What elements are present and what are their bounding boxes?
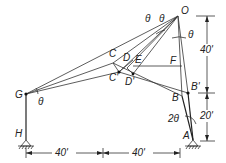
label-two-theta: 2θ xyxy=(167,113,180,124)
label-H: H xyxy=(15,128,23,139)
dimension-vertical xyxy=(196,16,215,141)
label-theta-3: θ xyxy=(188,29,194,40)
joint-G xyxy=(24,92,27,95)
label-Dprime: D' xyxy=(125,76,135,87)
dim-label-40-left: 40' xyxy=(55,147,69,158)
dimension-horizontal xyxy=(26,148,180,158)
label-E: E xyxy=(135,54,142,65)
label-D: D xyxy=(123,52,130,63)
frame-diagram: O G H A B B' C C' D E D' F θ θ θ θ 2θ 40… xyxy=(0,0,226,163)
label-Bprime: B' xyxy=(191,81,201,92)
dim-label-40-right: 40' xyxy=(132,147,146,158)
line-G-O xyxy=(26,16,178,94)
label-C: C xyxy=(109,48,117,59)
label-theta-1: θ xyxy=(145,13,151,24)
dim-label-20-vertical: 20' xyxy=(199,110,214,121)
line-G-C xyxy=(26,63,113,94)
label-Cprime: C' xyxy=(109,72,119,83)
label-B: B xyxy=(172,92,179,103)
line-G-Cprime xyxy=(26,72,119,94)
pin-support-H xyxy=(18,140,34,149)
label-G: G xyxy=(15,89,23,100)
joint-Dprime xyxy=(132,73,135,76)
ray-O-B xyxy=(178,16,182,96)
dim-label-40-vertical: 40' xyxy=(200,44,214,55)
label-theta-G: θ xyxy=(38,96,44,107)
label-A: A xyxy=(182,130,190,141)
ray-O-Bprime xyxy=(178,16,188,93)
label-O: O xyxy=(181,5,189,16)
label-theta-2: θ xyxy=(159,13,165,24)
pin-support-A xyxy=(185,140,201,149)
label-F: F xyxy=(170,55,177,66)
joint-Bprime xyxy=(186,91,189,94)
